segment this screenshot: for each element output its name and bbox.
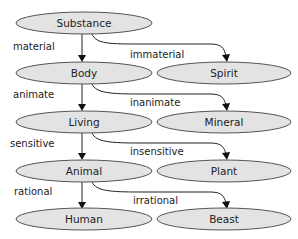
edge-living-plant: insensitive (92, 133, 230, 160)
edge-label-irrational: irrational (133, 195, 178, 206)
node-spirit: Spirit (157, 62, 291, 84)
edge-label-rational: rational (14, 186, 52, 197)
edge-label-immaterial: immaterial (130, 49, 184, 60)
node-human: Human (16, 208, 152, 230)
arrow-head-icon (222, 54, 230, 62)
arrow-head-icon (222, 103, 230, 111)
edge-label-sensitive: sensitive (10, 138, 54, 149)
node-label: Living (68, 116, 99, 128)
edge-label-insensitive: insensitive (130, 146, 184, 157)
node-label: Plant (211, 165, 237, 177)
edge-label-material: material (13, 41, 55, 52)
edge-body-living: animate (13, 84, 86, 111)
node-substance: Substance (16, 12, 152, 34)
edge-substance-spirit: immaterial (92, 34, 230, 62)
node-label: Spirit (210, 67, 238, 79)
arrow-head-icon (78, 153, 86, 160)
node-plant: Plant (157, 160, 291, 182)
edge-label-inanimate: inanimate (130, 97, 180, 108)
node-animal: Animal (16, 160, 152, 182)
arrow-head-icon (222, 152, 230, 160)
edge-body-mineral: inanimate (92, 84, 230, 111)
node-living: Living (16, 111, 152, 133)
arrow-head-icon (78, 104, 86, 111)
porphyry-tree-diagram: material animate sensitive rational imma… (0, 0, 298, 239)
node-label: Body (71, 67, 98, 79)
node-label: Animal (66, 165, 102, 177)
arrow-head-icon (78, 55, 86, 62)
edge-animal-human: rational (14, 182, 86, 209)
edge-label-animate: animate (13, 89, 54, 100)
node-body: Body (16, 62, 152, 84)
node-label: Mineral (205, 116, 244, 128)
edge-substance-body: material (13, 34, 86, 62)
edge-living-animal: sensitive (10, 133, 86, 160)
node-mineral: Mineral (157, 111, 291, 133)
node-label: Substance (57, 17, 112, 29)
node-beast: Beast (157, 208, 291, 230)
edge-animal-beast: irrational (92, 182, 230, 209)
node-label: Beast (209, 213, 239, 225)
node-label: Human (65, 213, 103, 225)
